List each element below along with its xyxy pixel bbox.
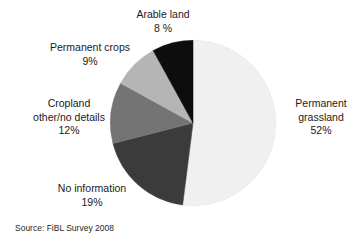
pie-chart-figure: Arable land 8 % Permanent crops 9% Cropl… — [0, 0, 356, 240]
pie-label-cropland-other-value: 12% — [10, 124, 128, 138]
pie-label-arable-land: Arable land 8 % — [0, 8, 356, 35]
pie-label-permanent-grassland: Permanent grassland 52% — [286, 97, 356, 138]
pie-label-arable-land-name: Arable land — [0, 8, 356, 22]
pie-slice-permanent-grassland[interactable] — [183, 40, 276, 205]
pie-label-cropland-other-name-line2: other/no details — [10, 111, 128, 125]
pie-label-no-information-name: No information — [30, 182, 154, 196]
pie-label-no-information-value: 19% — [30, 196, 154, 210]
source-note: Source: FiBL Survey 2008 — [15, 223, 114, 234]
pie-label-cropland-other-name-line1: Cropland — [10, 97, 128, 111]
pie-label-cropland-other: Cropland other/no details 12% — [10, 97, 128, 138]
pie-label-arable-land-value: 8 % — [0, 22, 356, 36]
pie-label-permanent-crops-value: 9% — [28, 55, 152, 69]
pie-label-permanent-crops: Permanent crops 9% — [28, 41, 152, 68]
pie-label-permanent-grassland-name-line1: Permanent — [286, 97, 356, 111]
pie-label-permanent-grassland-value: 52% — [286, 124, 356, 138]
pie-label-permanent-crops-name: Permanent crops — [28, 41, 152, 55]
pie-label-no-information: No information 19% — [30, 182, 154, 209]
pie-label-permanent-grassland-name-line2: grassland — [286, 111, 356, 125]
